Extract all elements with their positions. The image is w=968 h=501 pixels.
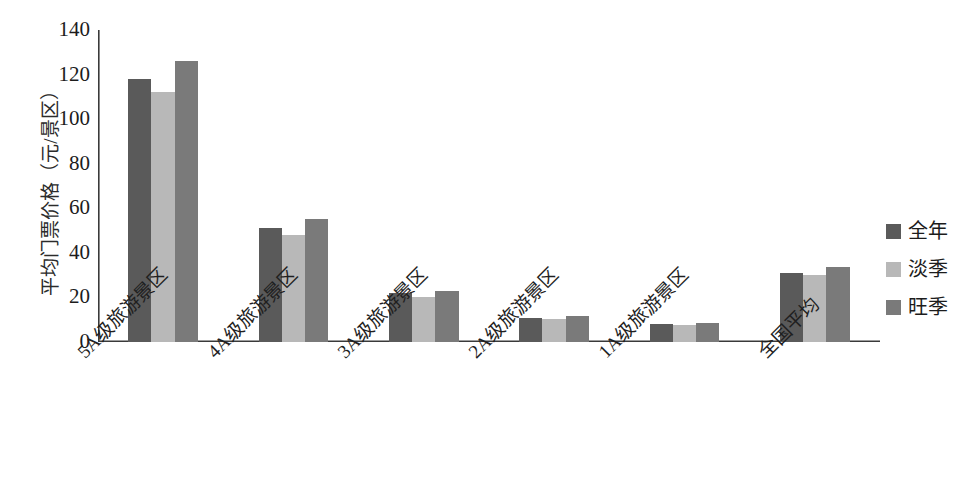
- y-tick-label: 120: [44, 64, 90, 85]
- bar: [435, 291, 458, 342]
- legend-item[interactable]: 淡季: [886, 250, 966, 288]
- bar: [826, 267, 849, 342]
- bar: [673, 325, 696, 342]
- legend-swatch: [886, 224, 901, 239]
- bars-layer: [98, 30, 880, 342]
- plot-area: [98, 30, 880, 342]
- legend-swatch: [886, 300, 901, 315]
- legend-label: 淡季: [908, 259, 948, 279]
- bar: [650, 324, 673, 342]
- bar: [305, 219, 328, 342]
- bar: [566, 316, 589, 342]
- bar: [151, 92, 174, 342]
- legend-item[interactable]: 全年: [886, 212, 966, 250]
- legend-item[interactable]: 旺季: [886, 288, 966, 326]
- bar: [175, 61, 198, 342]
- bar: [696, 323, 719, 342]
- legend-label: 旺季: [908, 297, 948, 317]
- legend: 全年淡季旺季: [886, 212, 966, 326]
- legend-swatch: [886, 262, 901, 277]
- y-tick-label: 140: [44, 19, 90, 40]
- y-axis-tick-labels: 140120100806040200: [40, 30, 90, 342]
- y-tick-label: 60: [44, 197, 90, 218]
- bar-group: [780, 30, 850, 342]
- bar: [542, 319, 565, 342]
- y-tick-label: 100: [44, 108, 90, 129]
- y-tick-label: 80: [44, 153, 90, 174]
- bar: [519, 318, 542, 343]
- y-tick-label: 20: [44, 286, 90, 307]
- y-tick-label: 40: [44, 242, 90, 263]
- x-axis-tick-labels: 5A级旅游景区4A级旅游景区3A级旅游景区2A级旅游景区1A级旅游景区全国平均: [98, 342, 888, 492]
- bar: [412, 297, 435, 342]
- bar-chart: 平均门票价格（元/景区） 140120100806040200 5A级旅游景区4…: [0, 0, 968, 501]
- legend-label: 全年: [908, 221, 948, 241]
